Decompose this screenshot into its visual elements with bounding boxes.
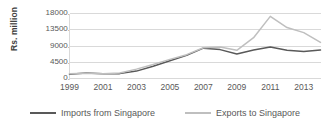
x-axis-tick-label: 2011 <box>255 82 285 92</box>
x-axis-tick-label: 2003 <box>121 82 151 92</box>
x-axis-tick-label: 2013 <box>289 82 319 92</box>
legend-label: Exports to Singapore <box>216 108 300 119</box>
legend-item[interactable]: Exports to Singapore <box>185 108 300 119</box>
line-chart: Rs. million 0.4500.9000.13500.18000. Imp… <box>0 0 330 127</box>
legend-label: Imports from Singapore <box>61 108 155 119</box>
x-axis-tick-label: 2005 <box>155 82 185 92</box>
x-axis-tick-label: 1999 <box>55 82 85 92</box>
series-line <box>70 16 321 73</box>
legend-line-swatch <box>185 112 211 114</box>
x-axis-tick-label: 2007 <box>188 82 218 92</box>
legend-line-swatch <box>30 112 56 114</box>
x-axis-tick-label: 2001 <box>88 82 118 92</box>
legend-item[interactable]: Imports from Singapore <box>30 108 155 119</box>
chart-legend: Imports from SingaporeExports to Singapo… <box>0 104 330 122</box>
x-axis-tick-label: 2009 <box>222 82 252 92</box>
